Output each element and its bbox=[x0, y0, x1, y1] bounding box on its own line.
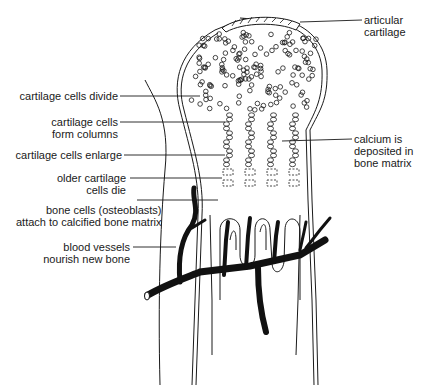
column-cell bbox=[227, 153, 233, 157]
cartilage-cell bbox=[242, 47, 247, 52]
cartilage-cell bbox=[277, 96, 282, 101]
label-cells-die: older cartilage cells die bbox=[0, 172, 126, 196]
column-cell bbox=[227, 131, 233, 135]
cartilage-cell bbox=[276, 70, 281, 75]
cartilage-cell bbox=[294, 48, 299, 53]
blood-vessels bbox=[148, 188, 330, 332]
column-cell bbox=[271, 149, 277, 153]
cortex-line-right bbox=[296, 215, 300, 355]
cartilage-cell bbox=[249, 83, 254, 88]
cartilage-cell bbox=[300, 49, 305, 54]
label-line: nourish new bone bbox=[0, 253, 130, 265]
cartilage-cell bbox=[311, 67, 316, 72]
cartilage-cell bbox=[237, 65, 242, 70]
column-cell bbox=[268, 122, 274, 126]
column-cell bbox=[246, 126, 252, 130]
enlarged-cell bbox=[267, 169, 277, 175]
cartilage-cell bbox=[237, 94, 242, 99]
column-cell bbox=[249, 117, 255, 121]
column-cell bbox=[246, 140, 252, 144]
column-cell bbox=[271, 113, 277, 117]
column-cell bbox=[224, 122, 230, 126]
cartilage-cell bbox=[243, 57, 248, 62]
cartilage-cell bbox=[300, 90, 305, 95]
cartilage-cell bbox=[221, 57, 226, 62]
cartilage-cell bbox=[248, 107, 253, 112]
cartilage-cell bbox=[193, 74, 198, 79]
label-line: deposited in bbox=[354, 145, 413, 157]
column-cell bbox=[224, 140, 230, 144]
column-cell bbox=[268, 162, 274, 166]
cartilage-cell bbox=[274, 44, 279, 49]
label-line: older cartilage bbox=[0, 172, 126, 184]
cartilage-cell bbox=[207, 106, 212, 111]
column-cell bbox=[293, 113, 299, 117]
cartilage-cell bbox=[249, 39, 254, 44]
cartilage-cell bbox=[273, 86, 278, 91]
label-cells-divide: cartilage cells divide bbox=[0, 90, 118, 102]
column-cell bbox=[290, 126, 296, 130]
periosteum-line bbox=[145, 80, 166, 385]
cartilage-cell bbox=[294, 83, 299, 88]
label-form-columns: cartilage cells form columns bbox=[0, 116, 118, 140]
cartilage-cell bbox=[307, 77, 312, 82]
vessel-opening bbox=[145, 292, 150, 300]
column-cell bbox=[224, 158, 230, 162]
column-cell bbox=[224, 162, 230, 166]
label-line: blood vessels bbox=[0, 241, 130, 253]
cartilage-cell bbox=[273, 93, 278, 98]
cartilage-cell bbox=[198, 69, 203, 74]
cartilage-cell bbox=[189, 98, 194, 103]
cartilage-cells bbox=[189, 30, 318, 112]
cartilage-cell bbox=[213, 55, 218, 60]
cartilage-cell bbox=[236, 101, 241, 106]
column-cell bbox=[293, 131, 299, 135]
cartilage-cell bbox=[278, 85, 283, 90]
label-calcium: calcium is deposited in bone matrix bbox=[354, 133, 413, 169]
column-cell bbox=[227, 135, 233, 139]
column-cell bbox=[290, 158, 296, 162]
label-line: cells die bbox=[0, 184, 126, 196]
column-cell bbox=[293, 149, 299, 153]
enlarged-cell bbox=[267, 180, 277, 186]
cartilage-cell bbox=[269, 32, 274, 37]
column-cell bbox=[246, 158, 252, 162]
label-line: bone matrix bbox=[354, 157, 413, 169]
column-cell bbox=[246, 162, 252, 166]
enlarged-cell bbox=[223, 180, 233, 186]
column-cell bbox=[271, 117, 277, 121]
cartilage-cell bbox=[264, 52, 269, 57]
cartilage-cell bbox=[300, 73, 305, 78]
cartilage-cell bbox=[285, 35, 290, 40]
cartilage-cell bbox=[223, 83, 228, 88]
cartilage-cell bbox=[299, 93, 304, 98]
cartilage-cell bbox=[197, 61, 202, 66]
label-line: bone cells (osteoblasts) bbox=[16, 204, 162, 216]
cartilage-cell bbox=[253, 108, 258, 113]
cartilage-cell bbox=[208, 96, 213, 101]
column-cell bbox=[293, 135, 299, 139]
column-cell bbox=[249, 113, 255, 117]
enlarged-cell bbox=[245, 180, 255, 186]
column-cell bbox=[268, 158, 274, 162]
label-cells-enlarge: cartilage cells enlarge bbox=[0, 149, 122, 161]
column-cell bbox=[249, 149, 255, 153]
cartilage-cell bbox=[217, 32, 222, 37]
cartilage-cell bbox=[255, 101, 260, 106]
column-cell bbox=[271, 135, 277, 139]
label-line: attach to calcified bone matrix bbox=[16, 216, 162, 228]
column-cell bbox=[246, 144, 252, 148]
bone-outline-right bbox=[240, 18, 327, 385]
column-cell bbox=[227, 149, 233, 153]
label-line: cartilage cells divide bbox=[0, 90, 118, 102]
cartilage-cell bbox=[248, 88, 253, 93]
column-cell bbox=[224, 144, 230, 148]
column-cell bbox=[224, 126, 230, 130]
column-cell bbox=[290, 122, 296, 126]
cartilage-cell bbox=[254, 72, 259, 77]
column-cell bbox=[293, 117, 299, 121]
cell-columns bbox=[223, 113, 299, 186]
cartilage-cell bbox=[243, 40, 248, 45]
column-cell bbox=[271, 131, 277, 135]
cartilage-cell bbox=[198, 102, 203, 107]
